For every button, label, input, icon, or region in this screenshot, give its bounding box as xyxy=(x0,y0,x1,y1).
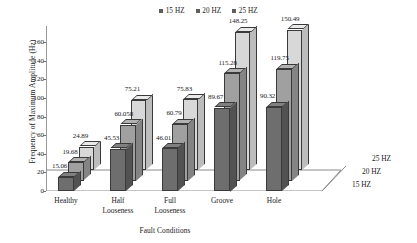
bar-side-face xyxy=(178,142,185,191)
bar-value-label: 46.01 xyxy=(156,134,171,142)
bar-value-label: 150.49 xyxy=(281,15,300,23)
bar xyxy=(58,177,74,191)
y-axis-tick-label: 160 xyxy=(4,38,44,46)
y-axis-tick-mark xyxy=(43,61,46,62)
chart-legend: 15 HZ 20 HZ 25 HZ xyxy=(0,7,417,15)
bar-side-face xyxy=(292,63,299,181)
bar-side-face xyxy=(250,26,257,170)
bar-side-face xyxy=(198,93,205,170)
y-axis-tick-label: 40 xyxy=(4,150,44,158)
bar-value-label: 75.83 xyxy=(177,85,192,93)
y-axis-tick-mark xyxy=(43,172,46,173)
bar-front-face xyxy=(110,149,126,191)
bar-side-face xyxy=(282,101,289,191)
bar-value-label: 60.058 xyxy=(114,110,133,118)
bar-value-label: 119.75 xyxy=(270,54,288,62)
bar-front-face xyxy=(266,107,282,191)
bar xyxy=(214,108,230,192)
bar-value-label: 19.68 xyxy=(62,148,77,156)
x-axis-label: Healthy xyxy=(44,196,88,206)
legend-label: 25 HZ xyxy=(239,7,258,15)
x-axis-label: Groove xyxy=(200,196,244,206)
depth-axis-label: 15 HZ xyxy=(352,180,371,189)
plot-area: 020406080100120140160 24.8975.2175.83148… xyxy=(46,26,346,191)
x-axis-title: Fault Conditions xyxy=(0,226,330,235)
bar xyxy=(266,107,282,191)
depth-axis-label: 25 HZ xyxy=(372,154,391,163)
y-axis-tick-label: 80 xyxy=(4,113,44,121)
bar-side-face xyxy=(146,94,153,170)
bar xyxy=(162,148,178,191)
bar-value-label: 148.25 xyxy=(229,17,248,25)
y-axis-tick-label: 120 xyxy=(4,75,44,83)
legend-item-20hz: 20 HZ xyxy=(196,7,222,15)
legend-item-15hz: 15 HZ xyxy=(159,7,185,15)
depth-axis-label: 20 HZ xyxy=(362,167,381,176)
x-axis-label: Full Looseness xyxy=(148,196,192,215)
bar-side-face xyxy=(126,142,133,191)
bar-value-label: 45.53 xyxy=(104,134,119,142)
y-axis-tick-label: 140 xyxy=(4,57,44,65)
bar-value-label: 89.67 xyxy=(208,93,223,101)
legend-label: 15 HZ xyxy=(166,7,185,15)
y-axis-tick-mark xyxy=(43,154,46,155)
bar-side-face xyxy=(136,118,143,180)
bar-value-label: 115.28 xyxy=(218,59,236,67)
bar-side-face xyxy=(230,101,237,191)
bar-side-face xyxy=(302,24,309,170)
y-axis-tick-mark xyxy=(43,42,46,43)
x-axis-label: Half Looseness xyxy=(96,196,140,215)
legend-swatch-icon xyxy=(196,9,200,13)
y-axis-line xyxy=(46,26,47,191)
bar xyxy=(110,149,126,191)
bar-side-face xyxy=(188,118,195,181)
bar-value-label: 90.32 xyxy=(260,92,275,100)
bar-chart: 15 HZ 20 HZ 25 HZ Frequency of Maximum A… xyxy=(0,0,417,243)
y-axis-tick-label: 20 xyxy=(4,168,44,176)
y-axis-tick-mark xyxy=(43,98,46,99)
bar-front-face xyxy=(162,148,178,191)
y-axis-tick-mark xyxy=(43,135,46,136)
legend-label: 20 HZ xyxy=(202,7,221,15)
x-axis-label: Hole xyxy=(252,196,296,206)
y-axis-tick-label: 100 xyxy=(4,94,44,102)
legend-swatch-icon xyxy=(159,9,163,13)
y-axis-tick-label: 60 xyxy=(4,131,44,139)
y-axis-tick-mark xyxy=(43,79,46,80)
bar-front-face xyxy=(58,177,74,191)
bar-value-label: 75.21 xyxy=(125,85,140,93)
bar-side-face xyxy=(240,67,247,181)
legend-swatch-icon xyxy=(232,9,236,13)
bar-value-label: 60.79 xyxy=(166,109,181,117)
bar-value-label: 15.06 xyxy=(52,162,67,170)
y-axis-tick-mark xyxy=(43,117,46,118)
bar-front-face xyxy=(214,108,230,192)
y-axis-tick-label: 0 xyxy=(4,187,44,195)
bar-value-label: 24.89 xyxy=(73,132,88,140)
y-axis-tick-mark xyxy=(43,191,46,192)
legend-item-25hz: 25 HZ xyxy=(232,7,258,15)
